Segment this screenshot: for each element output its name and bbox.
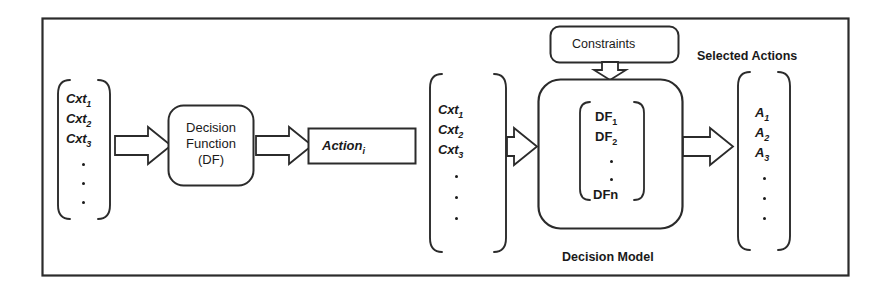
left-vector-dot-2 (82, 182, 85, 185)
decision-function-label: Decision Function (DF) (168, 120, 254, 168)
left-vector-item-2: Cxt2 (66, 112, 91, 129)
diagram-canvas: Cxt1 Cxt2 Cxt3 Decision Function (DF) Ac… (0, 0, 888, 290)
arrow-context-to-df (115, 127, 171, 164)
right-vector-item-1: Cxt1 (438, 103, 463, 120)
action-label: Actioni (322, 139, 365, 156)
arrow-constraints-down (594, 62, 626, 80)
df-vector-dot-2 (610, 178, 613, 181)
df-vector-item-n: DFn (593, 188, 618, 201)
actions-vector-item-1: A1 (755, 106, 769, 123)
df-vector-dot-1 (610, 160, 613, 163)
left-vector-dot-3 (82, 201, 85, 204)
df-vector-item-1: DF1 (595, 110, 617, 127)
right-vector-dot-1 (455, 175, 458, 178)
left-vector-dot-1 (82, 163, 85, 166)
arrow-decision-model-to-actions (683, 128, 733, 165)
constraints-label: Constraints (572, 38, 635, 51)
actions-vector-bracket-open (738, 72, 750, 250)
selected-actions-label: Selected Actions (697, 50, 797, 63)
decision-function-line-3: (DF) (168, 152, 254, 168)
decision-function-line-2: Function (168, 136, 254, 152)
left-vector-bracket-close (98, 80, 110, 219)
right-vector-item-2: Cxt2 (438, 123, 463, 140)
right-vector-bracket-open (430, 74, 442, 252)
decision-model-box (539, 80, 683, 229)
arrow-df-to-action (256, 127, 312, 164)
right-vector-item-3: Cxt3 (438, 143, 463, 160)
decision-function-line-1: Decision (168, 120, 254, 136)
actions-vector-item-2: A2 (755, 126, 769, 143)
decision-model-title: Decision Model (562, 251, 654, 264)
df-vector-item-2: DF2 (595, 130, 617, 147)
actions-vector-dot-3 (763, 217, 766, 220)
actions-vector-dot-2 (763, 197, 766, 200)
left-vector-item-1: Cxt1 (66, 92, 91, 109)
arrow-context-to-decision-model (507, 128, 537, 165)
actions-vector-dot-1 (763, 177, 766, 180)
right-vector-dot-3 (455, 217, 458, 220)
right-vector-bracket-close (494, 74, 506, 252)
right-vector-dot-2 (455, 196, 458, 199)
left-vector-item-3: Cxt3 (66, 132, 91, 149)
actions-vector-item-3: A3 (755, 146, 769, 163)
actions-vector-bracket-close (778, 72, 790, 250)
